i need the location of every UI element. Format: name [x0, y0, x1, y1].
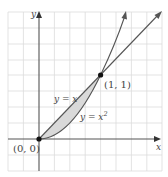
origin-label: (0, 0) — [13, 143, 40, 154]
region-between-curves-diagram: y x (0, 0) (1, 1) y = x y = x2 — [0, 0, 168, 177]
origin-point — [36, 136, 41, 141]
parabola-label-exponent: 2 — [102, 110, 107, 118]
y-axis-label: y — [30, 9, 37, 19]
parabola-label-base: y = x — [79, 112, 103, 122]
x-axis-label: x — [156, 142, 161, 152]
intersection-label: (1, 1) — [104, 79, 131, 90]
parabola-label: y = x2 — [79, 110, 108, 122]
line-label: y = x — [53, 94, 77, 104]
intersection-point — [98, 72, 103, 77]
